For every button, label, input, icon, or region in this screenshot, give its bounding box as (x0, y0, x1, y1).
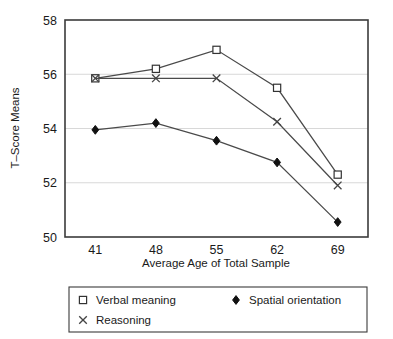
data-point-open-square (213, 46, 220, 53)
legend-entry-spatial-orientation: Spatial orientation (233, 294, 341, 306)
x-tick-label: 48 (149, 243, 163, 257)
legend-label: Verbal meaning (96, 294, 176, 306)
x-tick-label: 41 (88, 243, 102, 257)
y-axis-title: T–Score Means (9, 87, 21, 168)
y-tick-label: 50 (43, 231, 57, 245)
x-axis-title: Average Age of Total Sample (142, 257, 290, 269)
y-tick-label: 56 (43, 68, 57, 82)
legend-marker-open-square-icon (79, 296, 86, 303)
legend-label: Spatial orientation (249, 294, 341, 306)
data-point-open-square (274, 84, 281, 91)
y-tick-label: 52 (43, 176, 57, 190)
y-tick-label: 54 (43, 122, 57, 136)
data-point-open-square (152, 65, 159, 72)
x-tick-label: 55 (210, 243, 224, 257)
line-chart: 5052545658 4148556269 T–Score Means Aver… (0, 0, 393, 339)
legend-label: Reasoning (96, 314, 151, 326)
y-tick-label: 58 (43, 14, 57, 28)
x-tick-label: 69 (331, 243, 345, 257)
x-tick-label: 62 (270, 243, 284, 257)
data-point-open-square (334, 171, 341, 178)
chart-figure: 5052545658 4148556269 T–Score Means Aver… (0, 0, 393, 339)
